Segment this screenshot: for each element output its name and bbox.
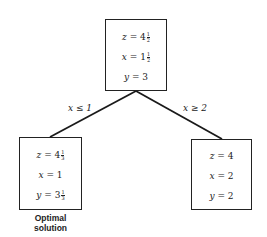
fraction: 13 [61,190,64,201]
root-x-value: x = 112 [106,52,166,63]
fraction: 13 [61,150,64,161]
root-z-value: z = 412 [106,32,166,43]
right-z-value: z = 4 [192,151,251,161]
optimal-solution-caption: Optimal solution [19,213,82,233]
left-branch-label: x ≤ 1 [68,103,92,113]
root-node: z = 412 x = 112 y = 3 [105,19,167,91]
left-x-value: x = 1 [20,170,81,180]
right-node: z = 4 x = 2 y = 2 [191,139,252,210]
left-z-value: z = 413 [20,150,81,161]
left-node: z = 413 x = 1 y = 313 [19,137,82,210]
right-branch-label: x ≥ 2 [183,103,207,113]
fraction: 12 [147,32,150,43]
root-y-value: y = 3 [106,72,166,82]
left-y-value: y = 313 [20,190,81,201]
edge-right [136,91,222,139]
right-x-value: x = 2 [192,171,251,181]
edge-left [50,91,136,137]
right-y-value: y = 2 [192,191,251,201]
fraction: 12 [147,52,150,63]
